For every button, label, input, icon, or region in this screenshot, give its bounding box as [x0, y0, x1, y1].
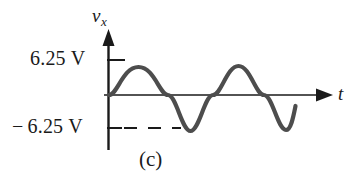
- x-axis-label: t: [338, 84, 343, 103]
- sine-waveform: [109, 66, 296, 131]
- tick-label-positive: 6.25V: [30, 48, 85, 68]
- waveform-figure: vx t 6.25V −6.25V (c): [0, 0, 364, 184]
- tick-label-negative-sign: −: [12, 115, 23, 137]
- waveform-plot: [0, 0, 364, 184]
- x-axis-arrowhead: [316, 89, 333, 102]
- y-axis-label: vx: [92, 6, 107, 28]
- y-axis-label-variable: v: [92, 5, 100, 26]
- tick-label-negative-unit: V: [68, 115, 83, 137]
- y-axis: [103, 29, 115, 150]
- tick-label-positive-value: 6.25: [30, 47, 66, 69]
- y-axis-label-subscript: x: [101, 14, 107, 29]
- tick-label-positive-unit: V: [71, 47, 86, 69]
- tick-label-negative: −6.25V: [12, 116, 83, 136]
- figure-caption: (c): [139, 149, 162, 170]
- tick-label-negative-value: 6.25: [27, 115, 63, 137]
- y-axis-arrowhead: [103, 29, 115, 46]
